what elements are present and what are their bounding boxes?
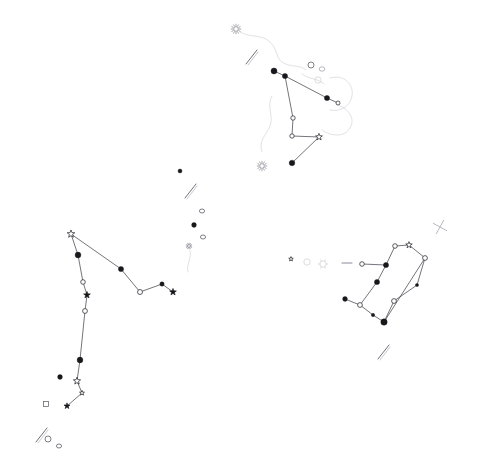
dso-cluster-6-ray [190,248,191,249]
dso-galaxy-4 [199,209,204,213]
star-right-constellation-r11 [383,262,388,267]
dso-cluster-1-ray [259,162,260,164]
constellation-boundary [261,96,272,152]
star-left-constellation-l7 [73,377,80,384]
dso-asterism-14-ray [433,223,440,227]
star-upper-constellation-u3 [324,95,329,100]
dso-galaxy-12 [56,444,61,448]
dso-cluster-6-ray [186,247,187,248]
constellation-line-right-constellation [360,282,377,305]
constellation-line-left-constellation [80,311,85,360]
star-upper-constellation-u8 [289,160,295,166]
star-right-constellation-r9 [343,297,348,302]
dso-galaxy-chain-7 [185,184,196,198]
star-left-constellation-l9 [64,403,70,409]
dso-cluster-0-ray [232,26,234,27]
constellation-line-right-constellation [386,246,395,265]
dso-cluster-1 [260,164,265,169]
star-right-constellation-r3 [423,256,428,261]
dso-cluster-1-ray [264,163,266,164]
dso-asterism-14-ray [440,227,447,231]
constellation-line-upper-constellation [292,118,293,136]
dso-nebula-16-ray [325,260,326,262]
dso-cluster-2 [308,62,314,68]
constellation-line-right-constellation [417,258,425,285]
star-left-constellation-l2 [75,252,81,258]
dso-galaxy-9-edge [380,347,390,360]
constellation-line-right-constellation [384,258,425,322]
dso-galaxy-8 [246,50,257,64]
dso-cluster-6-ray [187,248,188,249]
dso-cluster-1-ray [264,167,266,168]
dso-nebula-16 [320,261,326,267]
star-marker-layer [58,68,428,409]
constellation-boundary [330,77,352,110]
star-upper-constellation-u6 [290,134,294,138]
dso-cluster-6-ray [190,243,191,244]
dso-cluster-0-ray [237,31,238,33]
constellation-line-layer [67,71,425,406]
field-star-2 [58,375,63,380]
dso-cluster-0-ray [237,25,238,27]
constellation-boundary [240,32,306,70]
star-left-constellation-l13 [170,288,177,295]
star-upper-constellation-u1 [271,68,277,74]
dso-galaxy-9 [378,345,389,359]
star-right-constellation-r12 [360,262,365,267]
dso-galaxy-8-edge [248,52,258,65]
star-right-constellation-r10 [374,279,379,284]
star-chart-canvas [0,0,480,472]
star-left-constellation-l5 [83,309,88,314]
constellation-boundary [322,104,352,135]
constellation-line-left-constellation [71,234,121,269]
dso-galaxy-chain-7-edge [187,186,197,199]
dso-galaxy-3 [319,67,325,71]
dso-cluster-6 [188,245,191,248]
constellation-boundary-layer [188,32,353,272]
dso-cluster-1-ray [263,162,264,164]
field-star-1 [192,223,197,228]
star-right-constellation-r7 [371,313,374,316]
dso-asterism-14-ray [440,220,444,227]
dso-nebula-16-ray [325,267,326,269]
dso-nebula-15 [304,259,310,265]
field-star-0 [178,169,182,173]
constellation-line-right-constellation [384,301,394,322]
star-right-constellation-r4 [415,283,418,286]
star-upper-constellation-u4 [336,101,340,105]
constellation-line-right-constellation [377,265,386,282]
dso-cluster-0-ray [233,31,234,33]
constellation-line-upper-constellation [292,137,319,163]
star-upper-constellation-u5 [291,116,295,120]
dso-cluster-0-ray [233,25,234,27]
dso-nebula-16-ray [320,267,321,269]
dso-cluster-1-ray [259,168,260,170]
star-left-constellation-l6 [77,357,83,363]
constellation-line-left-constellation [71,234,78,255]
constellation-line-right-constellation [362,264,386,265]
star-right-constellation-r1 [393,244,398,249]
dso-cluster-1-ray [258,163,260,164]
star-right-constellation-r8 [358,303,363,308]
star-left-constellation-l12 [160,282,164,286]
star-right-constellation-r6 [381,319,387,325]
dso-cluster-0-ray [232,30,234,31]
star-left-constellation-l3 [81,280,86,285]
constellation-line-left-constellation [140,284,162,292]
dso-galaxy-13 [44,402,49,407]
dso-cluster-6-ray [186,244,187,245]
dso-galaxy-5 [200,235,205,239]
dso-cluster-0 [234,27,239,32]
dso-cluster-0-ray [238,30,240,31]
dso-asterism-14-ray [436,227,440,234]
star-left-constellation-l11 [138,290,143,295]
star-upper-constellation-u2 [282,73,287,78]
constellation-line-upper-constellation [285,76,293,118]
constellation-line-left-constellation [67,393,82,406]
dso-nebula-16-ray [320,260,321,262]
constellation-line-upper-constellation [292,136,319,137]
dso-cluster-6-ray [191,247,192,248]
constellation-line-right-constellation [394,285,417,301]
constellation-line-right-constellation [409,245,425,258]
dso-cluster-6-ray [187,243,188,244]
